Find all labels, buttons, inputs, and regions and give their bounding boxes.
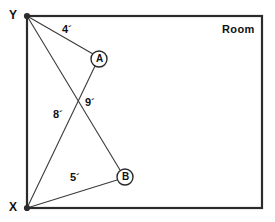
vertex-dot-x xyxy=(24,205,30,211)
node-label-b: B xyxy=(122,172,129,182)
vertex-dot-y xyxy=(24,13,30,19)
room-title-label: Room xyxy=(222,24,255,35)
room-diagram: Y X Room 4´ 9´ 8´ 5´ A B xyxy=(0,0,275,222)
dimension-label-y-to-a: 4´ xyxy=(62,24,72,35)
dimension-label-x-to-b: 5´ xyxy=(70,172,80,183)
corner-label-x: X xyxy=(9,201,17,213)
corner-label-y: Y xyxy=(9,9,17,21)
node-label-a: A xyxy=(96,54,103,64)
dimension-label-x-to-a: 8´ xyxy=(53,109,63,120)
dimension-label-y-to-b: 9´ xyxy=(85,97,95,108)
